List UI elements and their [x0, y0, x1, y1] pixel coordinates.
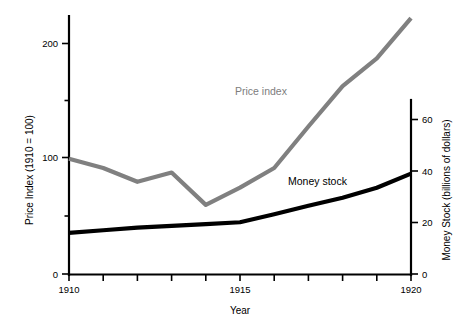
left-axis-group: 200 100 0 Price Index (1910 = 100)	[24, 16, 69, 280]
chart-canvas: 200 100 0 Price Index (1910 = 100) 1910 …	[0, 0, 470, 330]
x-tick-label-1910: 1910	[58, 284, 79, 295]
left-tick-label-0: 0	[53, 269, 58, 280]
right-tick-label-40: 40	[422, 166, 433, 177]
money-stock-label: Money stock	[288, 175, 348, 187]
right-tick-label-60: 60	[422, 114, 433, 125]
x-axis-group: 1910 1915 1920 Year	[58, 275, 421, 317]
x-tick-label-1920: 1920	[400, 284, 421, 295]
money-stock-line	[69, 174, 411, 233]
left-axis-title: Price Index (1910 = 100)	[24, 115, 35, 225]
right-tick-label-20: 20	[422, 217, 433, 228]
x-tick-label-1915: 1915	[229, 284, 250, 295]
x-axis-title: Year	[230, 305, 251, 316]
price-index-line	[69, 18, 411, 205]
chart-figure: 200 100 0 Price Index (1910 = 100) 1910 …	[0, 0, 470, 330]
series-group	[69, 18, 411, 233]
right-tick-label-0: 0	[422, 269, 427, 280]
right-axis-title: Money Stock (billions of dollars)	[441, 119, 452, 260]
price-index-label: Price index	[235, 85, 288, 97]
left-tick-label-200: 200	[42, 38, 58, 49]
left-tick-label-100: 100	[42, 152, 58, 163]
right-axis-group: 60 40 20 0 Money Stock (billions of doll…	[411, 100, 452, 280]
